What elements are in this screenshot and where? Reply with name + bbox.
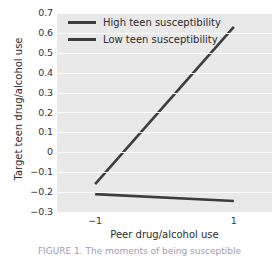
legend-item-label: Low teen susceptibility [103,34,218,46]
legend-item-label: High teen susceptibility [103,17,221,29]
x-axis-tick-label: 1 [231,215,237,226]
gridline [57,172,272,173]
y-axis-ticks: 0.70.60.50.40.30.20.10−0.1−0.2−0.3 [0,13,53,212]
y-axis-title: Target teen drug/alcohol use [13,14,25,204]
series-line-high-teen-susceptibility [95,27,234,184]
gridline [57,152,272,153]
gridline [57,212,272,213]
gridline [57,132,272,133]
gridline [57,73,272,74]
legend-item-high-teen-susceptibility: High teen susceptibility [68,16,221,29]
gridline [57,192,272,193]
chart-legend: High teen susceptibility Low teen suscep… [68,16,221,46]
x-axis-tick-label: −1 [88,215,102,226]
gridline [57,13,272,14]
series-line-low-teen-susceptibility [95,194,234,201]
x-axis-title: Peer drug/alcohol use [57,229,272,241]
gridline [57,93,272,94]
gridline [57,53,272,54]
gridline [57,112,272,113]
x-axis-ticks: −11 [0,215,279,228]
figure-caption: FIGURE 1. The moments of being susceptib… [0,246,279,257]
legend-line-swatch-icon [68,21,96,24]
legend-item-low-teen-susceptibility: Low teen susceptibility [68,33,221,46]
legend-line-swatch-icon [68,38,96,41]
